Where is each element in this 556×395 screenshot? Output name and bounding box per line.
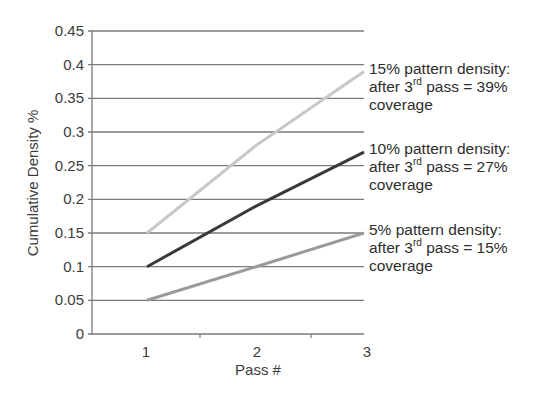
annotation-line1: 10% pattern density:: [369, 140, 510, 158]
x-axis-ticks: 123: [142, 334, 371, 360]
series-line: [147, 71, 364, 233]
series-line: [147, 152, 364, 267]
annotation-line3: coverage: [369, 257, 508, 275]
y-tick-label: 0.2: [63, 190, 84, 207]
annotation-line2: after 3rd pass = 39%: [369, 78, 510, 96]
y-axis-title: Cumulative Density %: [24, 110, 41, 257]
y-axis-ticks: 00.050.10.150.20.250.30.350.40.45: [55, 22, 84, 342]
y-tick-label: 0.1: [63, 258, 84, 275]
annotation-line2: after 3rd pass = 27%: [369, 158, 510, 176]
y-tick-label: 0.25: [55, 157, 84, 174]
y-tick-label: 0.35: [55, 89, 84, 106]
y-tick-label: 0.05: [55, 291, 84, 308]
gridlines: [88, 31, 364, 334]
annotation-line3: coverage: [369, 176, 510, 194]
y-tick-label: 0: [76, 325, 84, 342]
annotation-line3: coverage: [369, 96, 510, 114]
series-lines: [147, 71, 364, 300]
annotation-15pct: 15% pattern density: after 3rd pass = 39…: [369, 60, 510, 114]
y-tick-label: 0.45: [55, 22, 84, 39]
annotation-line1: 5% pattern density:: [369, 221, 508, 239]
y-tick-label: 0.3: [63, 123, 84, 140]
annotation-10pct: 10% pattern density: after 3rd pass = 27…: [369, 140, 510, 194]
x-tick-label: 3: [363, 343, 371, 360]
x-axis-title: Pass #: [235, 361, 282, 378]
y-tick-label: 0.15: [55, 224, 84, 241]
x-tick-label: 2: [253, 343, 261, 360]
annotation-5pct: 5% pattern density: after 3rd pass = 15%…: [369, 221, 508, 275]
y-tick-label: 0.4: [63, 56, 84, 73]
annotation-line2: after 3rd pass = 15%: [369, 239, 508, 257]
x-tick-label: 1: [142, 343, 150, 360]
annotation-line1: 15% pattern density:: [369, 60, 510, 78]
